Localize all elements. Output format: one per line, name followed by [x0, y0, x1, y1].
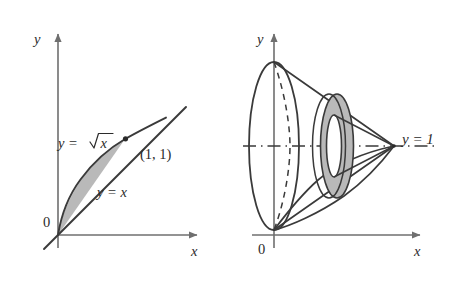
- left-label-line-y-equals-x: y = x: [95, 184, 127, 200]
- right-origin-label: 0: [258, 241, 265, 257]
- left-label-intersection: (1, 1): [140, 146, 172, 163]
- left-label-sqrt-radicand: x: [100, 135, 108, 151]
- left-origin-label: 0: [43, 214, 50, 230]
- math-figure-svg: y x 0 y = x y = x (1, 1): [0, 0, 449, 288]
- right-washer-inner-hole: [327, 115, 342, 177]
- right-x-axis-label: x: [413, 243, 421, 259]
- right-apex-point: [392, 144, 396, 148]
- left-intersection-point: [123, 136, 128, 141]
- left-y-axis-label: y: [32, 31, 41, 47]
- left-label-sqrt-lhs: y =: [56, 135, 78, 151]
- right-y-axis-label: y: [255, 31, 264, 47]
- figure-root: y x 0 y = x y = x (1, 1): [0, 0, 449, 288]
- left-x-axis-label: x: [190, 243, 198, 259]
- right-axis-of-revolution-label: y = 1: [400, 131, 434, 147]
